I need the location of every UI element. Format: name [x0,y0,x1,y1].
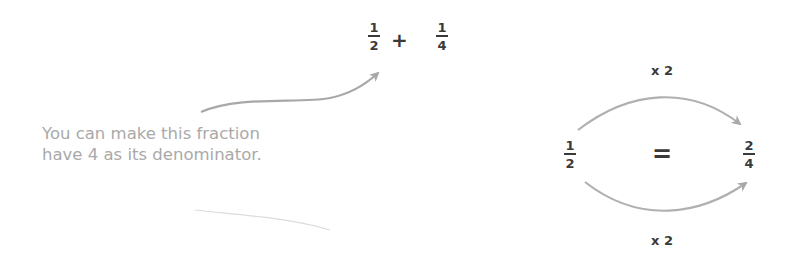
equivalence-right-fraction: 2 4 [743,139,755,170]
pointer-arrow [201,73,378,112]
fraction-bar [743,153,755,155]
faint-stroke [195,210,330,230]
numerator: 1 [437,21,446,34]
denominator: 4 [744,157,753,170]
fraction-bar [368,35,380,37]
hint-line-1: You can make this fraction [42,123,262,144]
numerator: 2 [744,139,753,152]
plus-operator: + [391,28,408,52]
bottom-multiplier-label: x 2 [651,233,673,248]
hint-line-2: have 4 as its denominator. [42,144,262,165]
expression-right-fraction: 1 4 [436,21,448,52]
hint-note: You can make this fraction have 4 as its… [42,123,262,165]
denominator: 2 [369,39,378,52]
equals-operator: = [652,140,672,168]
top-multiply-arrow [578,97,740,130]
denominator: 2 [565,157,574,170]
fraction-bar [564,153,576,155]
denominator: 4 [437,39,446,52]
bottom-multiply-arrow [585,182,746,211]
numerator: 1 [565,139,574,152]
fraction-bar [436,35,448,37]
numerator: 1 [369,21,378,34]
expression-left-fraction: 1 2 [368,21,380,52]
top-multiplier-label: x 2 [651,63,673,78]
equivalence-left-fraction: 1 2 [564,139,576,170]
